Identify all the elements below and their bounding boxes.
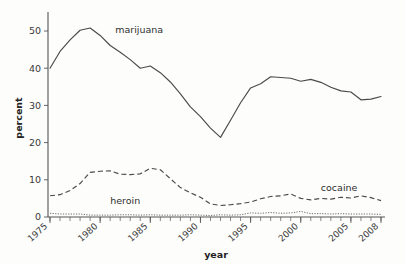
x-axis-minor-ticks — [50, 217, 381, 221]
x-axis-title: year — [204, 249, 228, 260]
y-tick-label: 30 — [29, 100, 41, 111]
chart-page: 01020304050 1975198019851990199520002005… — [0, 0, 405, 264]
x-tick-label: 1980 — [76, 221, 100, 244]
x-tick-label: 1985 — [126, 221, 150, 244]
y-axis-title: percent — [13, 97, 24, 139]
x-tick-label: 2005 — [327, 221, 351, 244]
drug-use-line-chart: 01020304050 1975198019851990199520002005… — [0, 0, 405, 264]
x-tick-label: 2000 — [276, 221, 300, 244]
y-axis-ticks — [44, 31, 48, 217]
series-label-marijuana: marijuana — [115, 24, 163, 35]
x-axis-major-ticks — [50, 217, 381, 223]
y-tick-label: 50 — [29, 25, 41, 36]
series-line-heroin — [50, 211, 381, 215]
x-tick-label: 1975 — [26, 221, 50, 244]
x-tick-label: 2008 — [357, 221, 381, 244]
y-tick-label: 40 — [29, 63, 41, 74]
x-axis-tick-labels: 19751980198519901995200020052008 — [26, 221, 381, 244]
x-tick-label: 1990 — [176, 221, 200, 244]
x-tick-label: 1995 — [226, 221, 250, 244]
series-label-cocaine: cocaine — [321, 182, 358, 193]
y-axis-tick-labels: 01020304050 — [29, 25, 41, 222]
series-label-heroin: heroin — [110, 195, 140, 206]
y-tick-label: 0 — [35, 211, 41, 222]
series-line-marijuana — [50, 28, 381, 137]
y-tick-label: 10 — [29, 174, 41, 185]
y-tick-label: 20 — [29, 137, 41, 148]
